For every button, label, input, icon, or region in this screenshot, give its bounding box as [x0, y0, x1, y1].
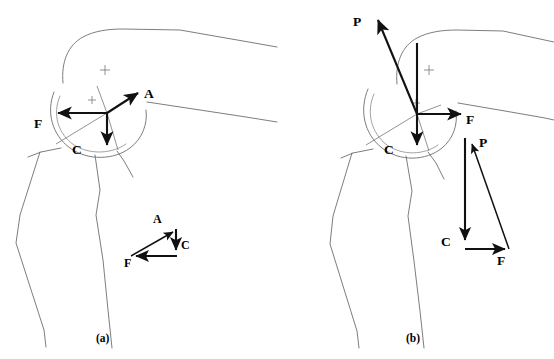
triangle-a-label-C: C	[181, 238, 190, 252]
vector-F-label-b: F	[466, 112, 474, 127]
vector-C-label-b: C	[384, 142, 394, 157]
center-cross-upper-a	[100, 65, 110, 75]
femur-shaft-right-b	[406, 156, 424, 348]
center-cross-lower-a	[88, 96, 96, 104]
triangle-a-label-F: F	[124, 256, 131, 270]
trochanter-edge-b	[428, 152, 444, 179]
force-triangle-a: A C F	[124, 212, 190, 270]
panel-b: P F C P C F (b)	[330, 14, 554, 348]
femur-shaft-left-a	[16, 152, 46, 347]
pelvis-outline-b	[397, 30, 554, 84]
radial-guide-b-1	[366, 114, 417, 145]
acetabulum-inner-arc-a	[56, 96, 126, 152]
triangle-b-label-F: F	[497, 253, 505, 268]
acetabulum-inner-arc-b	[370, 94, 438, 153]
triangle-a-vector-A	[131, 232, 173, 256]
figure-root: A F C A C F (a)	[0, 0, 554, 359]
pelvis-outline-a	[63, 29, 277, 83]
force-triangle-b: P C F	[441, 135, 509, 268]
femoral-neck-a	[28, 148, 61, 157]
femoral-neck-b	[341, 149, 373, 158]
vector-P-shaft-b	[378, 20, 417, 114]
radial-guide-a-1	[56, 113, 107, 144]
vector-F-label-a: F	[34, 116, 42, 131]
vector-A-shaft-a	[107, 93, 138, 113]
center-cross-upper-b	[424, 65, 434, 75]
panel-a: A F C A C F (a)	[16, 29, 277, 348]
triangle-a-label-A: A	[153, 212, 162, 226]
panel-a-caption: (a)	[96, 332, 110, 345]
pelvis-lower-edge-a	[147, 102, 277, 122]
panel-b-caption: (b)	[406, 332, 420, 345]
radial-guide-b-3	[417, 105, 441, 114]
radial-guide-b-2	[417, 114, 429, 151]
triangle-b-vector-P	[472, 144, 509, 249]
femoral-head-arc-a	[51, 92, 147, 157]
vector-P-label-b: P	[353, 14, 361, 29]
vector-C-label-a: C	[72, 142, 82, 157]
triangle-b-label-P: P	[479, 135, 487, 150]
triangle-b-label-C: C	[441, 234, 451, 249]
femur-shaft-left-b	[330, 153, 359, 348]
biomechanics-figure: A F C A C F (a)	[0, 0, 554, 359]
trochanter-edge-a	[117, 151, 133, 177]
radial-guide-a-2	[107, 113, 118, 150]
femur-shaft-right-a	[95, 155, 112, 348]
vector-A-label-a: A	[144, 86, 154, 101]
radial-guide-a-3	[97, 86, 107, 113]
